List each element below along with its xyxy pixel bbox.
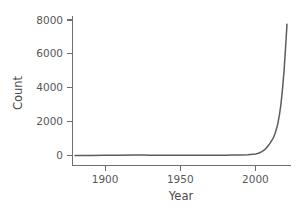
y-tick-label: 2000 <box>36 115 63 127</box>
x-tick-label: 1900 <box>92 173 119 185</box>
x-axis-tick-labels: 190019502000 <box>92 173 269 185</box>
y-axis-title: Count <box>11 75 25 110</box>
line-chart: 02000400060008000 190019502000 Count Yea… <box>0 0 298 212</box>
x-axis-title: Year <box>168 189 194 203</box>
y-tick-label: 4000 <box>36 81 63 93</box>
x-tick-label: 2000 <box>242 173 269 185</box>
chart-figure: 02000400060008000 190019502000 Count Yea… <box>0 0 298 212</box>
y-tick-label: 0 <box>56 149 63 161</box>
plot-area <box>72 16 290 156</box>
y-tick-label: 6000 <box>36 47 63 59</box>
x-tick-label: 1950 <box>167 173 194 185</box>
y-tick-label: 8000 <box>36 14 63 26</box>
